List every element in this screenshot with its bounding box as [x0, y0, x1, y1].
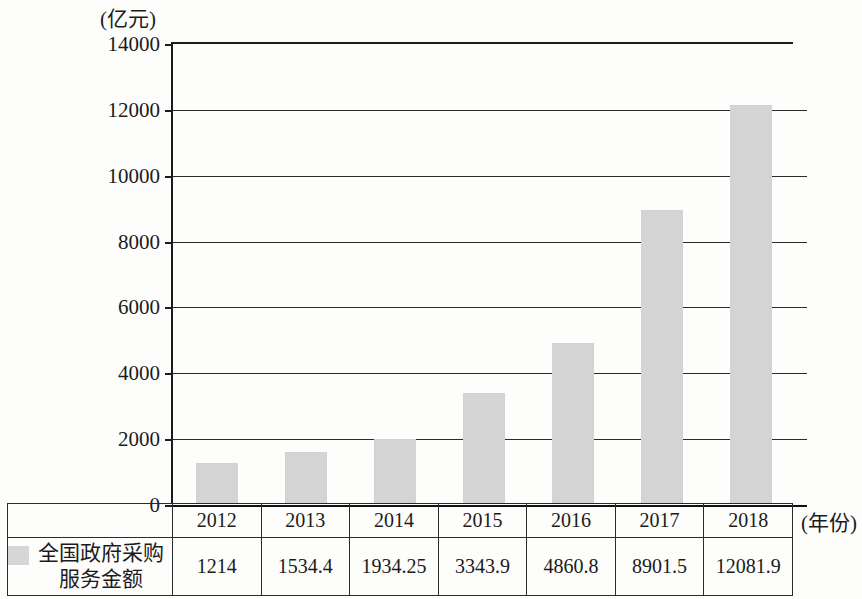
value-cell-2012: 1214	[173, 538, 262, 596]
legend-swatch-icon	[8, 546, 29, 565]
y-axis-tick-label: 8000	[118, 231, 160, 252]
year-cell-2013: 2013	[261, 504, 350, 538]
year-cell-2012: 2012	[173, 504, 262, 538]
value-cell-2014: 1934.25	[350, 538, 439, 596]
year-cell-2016: 2016	[527, 504, 616, 538]
y-axis-tick-mark	[165, 373, 173, 375]
y-axis-tick-label: 4000	[118, 363, 160, 384]
y-axis-tick-mark	[165, 242, 173, 244]
bar-chart-figure: (亿元) 14000120001000080006000400020000 20…	[0, 0, 862, 599]
y-axis-tick-label: 14000	[108, 34, 161, 55]
value-cell-2017: 8901.5	[615, 538, 704, 596]
bar-2012	[196, 463, 238, 503]
gridline	[173, 242, 807, 243]
year-cell-2015: 2015	[438, 504, 527, 538]
gridline	[173, 373, 807, 374]
y-axis-tick-mark	[165, 439, 173, 441]
gridline	[173, 110, 807, 111]
year-cell-2017: 2017	[615, 504, 704, 538]
y-axis-tick-label: 6000	[118, 297, 160, 318]
y-axis-tick-label: 2000	[118, 429, 160, 450]
gridline	[173, 307, 807, 308]
data-table-wrapper: 2012 2013 2014 2015 2016 2017 2018 全国政府采…	[7, 503, 793, 593]
value-cell-2018: 12081.9	[704, 538, 793, 596]
x-axis-unit-label: (年份)	[801, 506, 857, 536]
table-row-years: 2012 2013 2014 2015 2016 2017 2018	[8, 504, 793, 538]
bar-2013	[285, 452, 327, 503]
value-cell-2013: 1534.4	[261, 538, 350, 596]
bar-2018	[730, 105, 772, 503]
bar-2014	[374, 439, 416, 503]
y-axis-tick-mark	[165, 176, 173, 178]
y-axis-unit-label: (亿元)	[100, 2, 156, 32]
y-axis-tick-mark	[165, 44, 173, 46]
year-cell-2018: 2018	[704, 504, 793, 538]
value-cell-2016: 4860.8	[527, 538, 616, 596]
legend-series-label: 全国政府采购 服务金额	[38, 541, 164, 592]
value-cell-2015: 3343.9	[438, 538, 527, 596]
bar-2015	[463, 393, 505, 503]
y-axis-tick-label: 10000	[108, 165, 161, 186]
y-axis-tick-mark	[165, 307, 173, 309]
legend-cell: 全国政府采购 服务金额	[8, 538, 173, 596]
table-row-values: 全国政府采购 服务金额 1214 1534.4 1934.25 3343.9 4…	[8, 538, 793, 596]
bar-2016	[552, 343, 594, 503]
bar-2017	[641, 210, 683, 503]
y-axis-tick-label: 12000	[108, 99, 161, 120]
year-cell-2014: 2014	[350, 504, 439, 538]
table-corner-cell	[8, 504, 173, 538]
data-table: 2012 2013 2014 2015 2016 2017 2018 全国政府采…	[7, 503, 793, 596]
plot-area: 14000120001000080006000400020000	[171, 42, 793, 503]
y-axis-tick-mark	[165, 110, 173, 112]
gridline	[173, 176, 807, 177]
